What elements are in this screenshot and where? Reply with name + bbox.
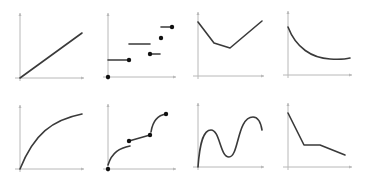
x-axis-arrow-icon [81, 77, 84, 80]
data-curve [288, 27, 350, 59]
data-point-dot [127, 58, 131, 62]
data-line [20, 33, 82, 78]
chart-wave [193, 103, 264, 170]
chart-decay [283, 11, 352, 78]
data-point-dot [148, 52, 152, 56]
chart-piecewise-curve [103, 104, 176, 172]
x-axis-arrow-icon [173, 76, 176, 79]
x-axis-arrow-icon [261, 75, 264, 78]
y-axis-arrow-icon [107, 13, 110, 16]
x-axis-arrow-icon [173, 168, 176, 171]
function-graphs-grid [0, 0, 368, 181]
data-point-dot [127, 139, 131, 143]
chart-concave [15, 105, 84, 172]
chart-decreasing-plateau [283, 103, 352, 170]
y-axis-arrow-icon [107, 104, 110, 107]
chart-linear [15, 13, 84, 81]
data-point-dot [159, 36, 163, 40]
data-line [198, 21, 262, 48]
data-curve [129, 135, 150, 141]
data-curve [20, 114, 82, 169]
data-point-dot [164, 112, 168, 116]
chart-v-shape [193, 12, 264, 79]
x-axis-arrow-icon [261, 166, 264, 169]
data-curve [151, 114, 166, 132]
x-axis-arrow-icon [349, 74, 352, 77]
chart-step [103, 13, 176, 80]
y-axis-arrow-icon [19, 105, 22, 108]
data-curve [108, 146, 130, 165]
y-axis-arrow-icon [287, 11, 290, 14]
y-axis-arrow-icon [19, 13, 22, 16]
data-point-dot [170, 25, 174, 29]
data-point-dot [148, 133, 152, 137]
data-point-dot [106, 167, 110, 171]
y-axis-arrow-icon [197, 103, 200, 106]
y-axis-arrow-icon [287, 103, 290, 106]
data-line [288, 113, 345, 155]
y-axis-arrow-icon [197, 12, 200, 15]
data-curve [198, 117, 262, 167]
x-axis-arrow-icon [349, 166, 352, 169]
data-point-dot [106, 75, 110, 79]
x-axis-arrow-icon [81, 168, 84, 171]
